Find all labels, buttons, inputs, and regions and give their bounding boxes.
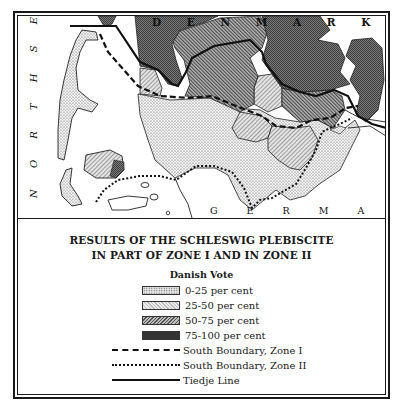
- swatch-dotted: [142, 286, 180, 295]
- legend-label: South Boundary, Zone I: [183, 345, 302, 356]
- island-amrum: [60, 168, 82, 206]
- label-denmark: D E N M A R K: [152, 16, 381, 28]
- coastline-west: [175, 178, 192, 218]
- island-pellworm: [108, 196, 148, 210]
- solid-line-swatch: [112, 379, 180, 381]
- legend-label: Tiedje Line: [183, 375, 240, 386]
- map-legend-divider: [17, 218, 386, 219]
- legend-panel: RESULTS OF THE SCHLESWIG PLEBISCITE IN P…: [18, 220, 385, 394]
- region-75-100-als-island: [346, 38, 384, 122]
- legend-item-tiedje-line: Tiedje Line: [112, 373, 240, 387]
- legend-item-0-25: 0-25 per cent: [142, 283, 253, 297]
- islet-1: [141, 183, 149, 188]
- legend-item-50-75: 50-75 per cent: [142, 313, 259, 327]
- islet-2: [150, 194, 158, 200]
- legend-label: 50-75 per cent: [185, 315, 259, 326]
- legend-item-zone-1-boundary: South Boundary, Zone I: [112, 343, 302, 357]
- legend-label: 75-100 per cent: [185, 330, 266, 341]
- legend-label: South Boundary, Zone II: [183, 360, 306, 371]
- legend-label: 0-25 per cent: [185, 285, 253, 296]
- swatch-dark-crosshatch: [142, 331, 180, 340]
- legend-title-line-1: RESULTS OF THE SCHLESWIG PLEBISCITE: [18, 234, 385, 246]
- legend-item-zone-2-boundary: South Boundary, Zone II: [112, 358, 306, 372]
- legend-subtitle: Danish Vote: [18, 269, 385, 280]
- legend-item-75-100: 75-100 per cent: [142, 328, 266, 342]
- schleswig-map: D E N M A R K G E R M A N Y N O R T H S …: [18, 16, 385, 218]
- map-area: D E N M A R K G E R M A N Y N O R T H S …: [18, 16, 385, 218]
- label-north-sea: N O R T H S E A: [28, 16, 39, 199]
- swatch-dense-hatch: [142, 316, 180, 325]
- swatch-light-hatch: [142, 301, 180, 310]
- islet-3: [166, 211, 170, 215]
- dashed-line-swatch: [112, 349, 180, 351]
- label-germany: G E R M A N Y: [210, 205, 385, 216]
- island-sylt: [58, 30, 98, 160]
- region-75-100-top-islet: [98, 16, 116, 26]
- legend-item-25-50: 25-50 per cent: [142, 298, 259, 312]
- dotted-line-swatch: [112, 364, 180, 366]
- legend-title-line-2: IN PART OF ZONE I AND IN ZONE II: [18, 249, 385, 261]
- legend-label: 25-50 per cent: [185, 300, 259, 311]
